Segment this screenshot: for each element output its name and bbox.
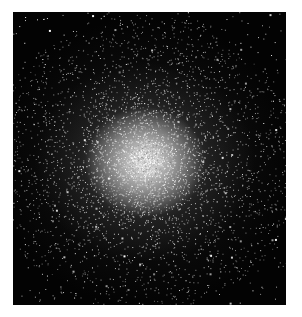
star-field <box>13 12 286 305</box>
star-cluster-photo <box>13 12 286 305</box>
